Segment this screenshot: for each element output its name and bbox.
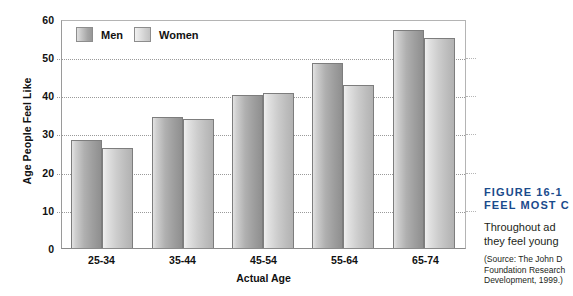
bar-men-35-44 — [152, 117, 183, 248]
edge-dot — [466, 96, 476, 97]
bar-men-65-74 — [393, 30, 424, 248]
caption-source-line-2: Foundation Research — [484, 265, 573, 276]
bar-women-65-74 — [424, 38, 455, 248]
bar-group-55-64 — [312, 21, 374, 248]
bar-group-45-54 — [232, 21, 294, 248]
bar-group-65-74 — [393, 21, 455, 248]
caption-body-line-1: Throughout ad — [484, 221, 573, 235]
caption-source-line-3: Development, 1999.) — [484, 275, 573, 286]
y-tick-label: 50 — [24, 53, 54, 63]
bar-men-45-54 — [232, 95, 263, 248]
bar-women-35-44 — [183, 119, 214, 248]
bar-men-55-64 — [312, 63, 343, 248]
figure-number: FIGURE 16-1 — [484, 186, 573, 199]
y-axis-tick-labels: 60 50 40 30 20 10 0 — [24, 0, 54, 296]
bar-group-35-44 — [152, 21, 214, 248]
page-edge-artifacts — [466, 0, 480, 296]
bar-series-container — [62, 21, 465, 248]
edge-dot — [466, 173, 476, 174]
caption-body-line-2: they feel young — [484, 235, 573, 249]
x-tick-label-35-44: 35-44 — [142, 254, 223, 266]
figure-chart: Age People Feel Like 60 50 40 30 20 10 0… — [0, 0, 470, 296]
x-tick-label-65-74: 65-74 — [385, 254, 466, 266]
x-tick-label-25-34: 25-34 — [61, 254, 142, 266]
bar-women-25-34 — [102, 148, 133, 248]
edge-dot — [466, 211, 476, 212]
y-tick-label: 60 — [24, 15, 54, 25]
caption-source-line-1: (Source: The John D — [484, 254, 573, 265]
edge-dot — [466, 58, 476, 59]
x-tick-label-45-54: 45-54 — [223, 254, 304, 266]
plot-area: Men Women — [61, 20, 466, 249]
y-tick-label: 10 — [24, 206, 54, 216]
bar-men-25-34 — [71, 140, 102, 248]
bar-group-25-34 — [71, 21, 133, 248]
y-tick-label: 0 — [24, 244, 54, 254]
bar-women-55-64 — [343, 85, 374, 248]
edge-dot — [466, 134, 476, 135]
figure-caption-source: (Source: The John D Foundation Research … — [484, 254, 573, 286]
figure-title-line: FEEL MOST C — [484, 199, 573, 212]
x-tick-label-55-64: 55-64 — [304, 254, 385, 266]
y-tick-label: 40 — [24, 91, 54, 101]
x-axis-title: Actual Age — [61, 272, 466, 284]
y-tick-label: 30 — [24, 129, 54, 139]
bar-women-45-54 — [263, 93, 294, 248]
figure-caption-body: Throughout ad they feel young — [484, 221, 573, 248]
y-tick-label: 20 — [24, 168, 54, 178]
figure-caption: FIGURE 16-1 FEEL MOST C Throughout ad th… — [484, 186, 573, 286]
figure-caption-title: FIGURE 16-1 FEEL MOST C — [484, 186, 573, 212]
